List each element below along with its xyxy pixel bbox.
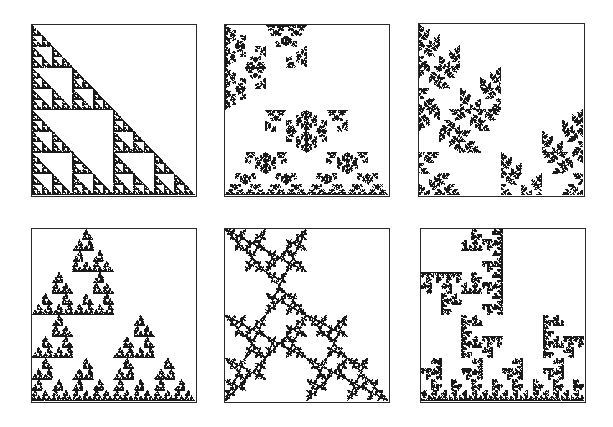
fractal-panel-2: irregular-rings — [224, 24, 390, 197]
fractal-canvas — [32, 229, 195, 401]
fractal-canvas — [32, 25, 195, 195]
fractal-panel-3: diagonal-cross-lattice — [418, 23, 585, 197]
fractal-canvas — [225, 229, 388, 401]
fractal-canvas — [419, 24, 583, 195]
fractal-panel-5: triangle-chains — [224, 228, 390, 403]
fractal-panel-4: comb-branches — [31, 228, 197, 403]
fractal-panel-1: snowflake-rings — [31, 24, 197, 197]
fractal-canvas — [225, 25, 388, 195]
fractal-canvas — [421, 229, 584, 401]
fractal-panel-6: dragon-curl-branches — [420, 228, 586, 403]
